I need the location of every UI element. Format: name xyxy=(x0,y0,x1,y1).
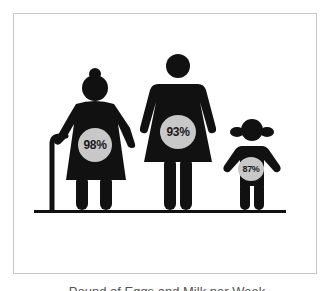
ground-line xyxy=(34,210,286,213)
child-percentage-badge: 87% xyxy=(238,157,264,181)
caption-clip: Pound of Eggs and Milk per Week xyxy=(0,282,334,291)
caption-text: Pound of Eggs and Milk per Week xyxy=(0,284,334,291)
grandmother-percentage-badge: 98% xyxy=(78,128,112,162)
mother-percentage-badge: 93% xyxy=(160,115,196,149)
